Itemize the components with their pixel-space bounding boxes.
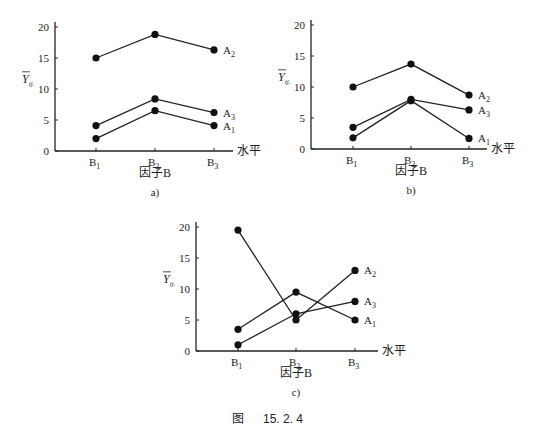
data-point [92,122,99,129]
x-axis-suffix: 水平 [491,142,515,156]
x-tick-label: B3 [207,156,218,171]
x-axis-suffix: 水平 [237,144,261,158]
data-point [465,106,472,113]
series-label: A1 [478,132,490,147]
data-point [465,91,472,98]
panel-label: c) [292,386,301,399]
data-point [349,124,356,131]
figure-caption: 图15. 2. 4 [232,412,303,426]
data-point [210,46,217,53]
y-tick-label: 0 [44,145,50,157]
y-tick-label: 20 [179,221,191,233]
y-tick-label: 0 [300,143,306,155]
series-label: A3 [364,295,376,310]
y-axis-label: Yij. [163,272,176,288]
data-point [292,310,299,317]
y-tick-label: 0 [185,345,191,357]
data-point [151,31,158,38]
x-tick-label: B1 [231,356,242,371]
series-label: A2 [364,264,376,279]
x-axis-title: 因子B [280,366,312,380]
y-tick-label: 5 [44,114,50,126]
data-point [92,135,99,142]
data-point [292,289,299,296]
series-label: A3 [478,104,490,119]
data-point [210,109,217,116]
x-tick-label: B1 [89,156,100,171]
x-axis-title: 因子B [139,166,171,180]
series-line-a2 [238,230,355,320]
y-tick-label: 5 [185,314,191,326]
y-tick-label: 10 [38,83,50,95]
data-point [210,122,217,129]
data-point [234,326,241,333]
y-tick-label: 15 [294,50,306,62]
interaction-plots-figure: 05101520Yij.B1B2B3水平因子Ba)A1A2A305101520Y… [0,0,533,436]
data-point [351,298,358,305]
data-point [407,96,414,103]
data-point [349,134,356,141]
data-point [351,316,358,323]
data-point [407,60,414,67]
chart-panel-b: 05101520Yij.B1B2B3水平因子Bb)A1A2A3 [278,19,515,197]
y-tick-label: 20 [294,19,306,31]
data-point [151,107,158,114]
y-tick-label: 10 [294,81,306,93]
chart-panel-c: 05101520Yij.B1B2B3水平因子Bc)A1A2A3 [163,221,406,399]
data-point [234,227,241,234]
data-point [292,316,299,323]
series-line-a2 [353,64,469,95]
series-label: A1 [223,120,235,135]
y-tick-label: 15 [38,52,50,64]
data-point [351,267,358,274]
panel-label: a) [151,186,160,199]
series-line-a1 [96,111,214,139]
x-tick-label: B3 [462,154,473,169]
x-axis-suffix: 水平 [382,344,406,358]
chart-panel-a: 05101520Yij.B1B2B3水平因子Ba)A1A2A3 [22,21,261,199]
series-label: A2 [478,89,490,104]
data-point [349,83,356,90]
figure-caption-prefix: 图 [232,412,244,426]
x-axis-title: 因子B [395,164,427,178]
data-point [234,341,241,348]
y-tick-label: 15 [179,252,191,264]
y-axis-label: Yij. [22,72,35,88]
y-tick-label: 5 [300,112,306,124]
data-point [465,135,472,142]
x-tick-label: B1 [346,154,357,169]
y-axis-label: Yij. [278,70,291,86]
data-point [151,95,158,102]
panel-label: b) [406,184,416,197]
series-label: A2 [223,44,235,59]
figure-caption-number: 15. 2. 4 [263,412,303,426]
y-tick-label: 20 [38,21,50,33]
series-label: A1 [364,314,376,329]
data-point [92,54,99,61]
y-tick-label: 10 [179,283,191,295]
x-tick-label: B3 [348,356,359,371]
